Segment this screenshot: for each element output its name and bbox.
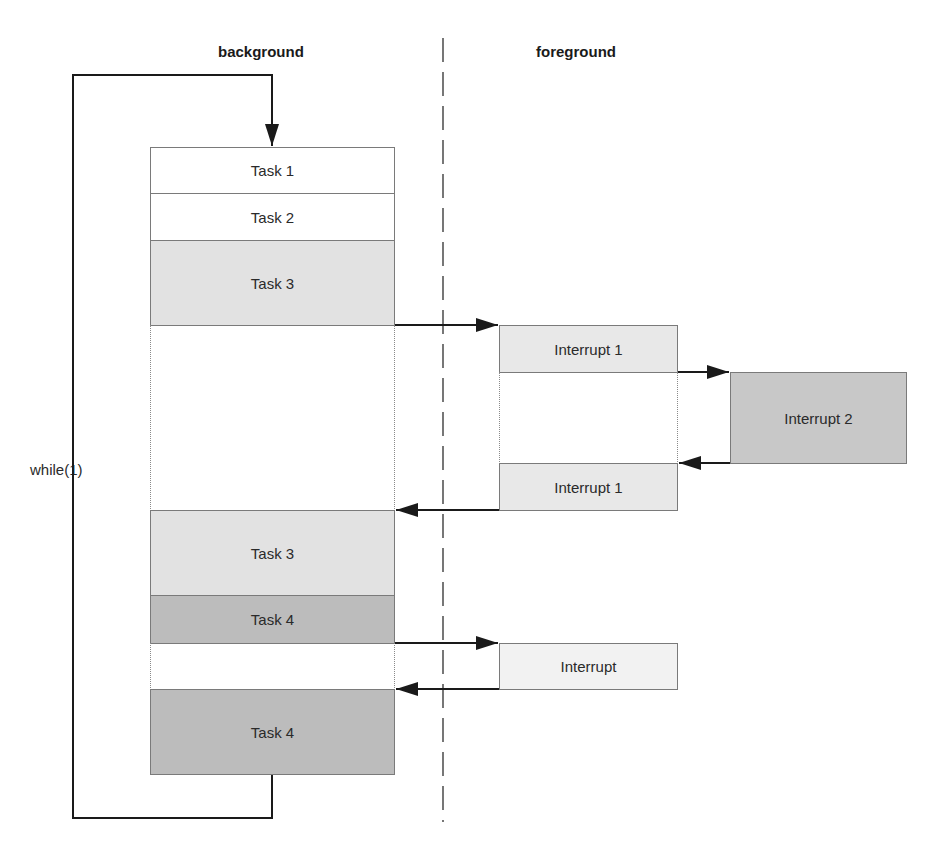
loop-arrow [73, 75, 272, 818]
connectors [0, 0, 947, 859]
